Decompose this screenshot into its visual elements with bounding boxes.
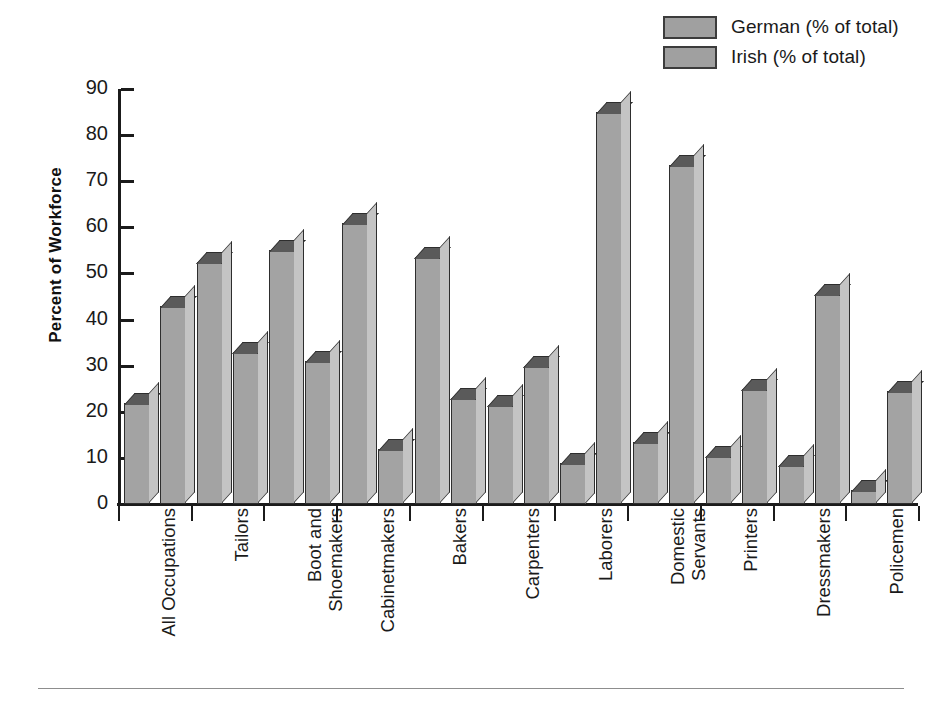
y-tick-mark xyxy=(121,365,134,368)
bar-side-face xyxy=(185,285,195,503)
bar xyxy=(378,449,404,504)
bar xyxy=(160,306,186,504)
x-category-label: Cabinetmakers xyxy=(377,508,398,658)
x-category-label: Printers xyxy=(740,508,761,658)
x-category-label: Boot and Shoemakers xyxy=(304,508,346,658)
x-category-label: Bakers xyxy=(449,508,470,658)
bar xyxy=(669,165,695,504)
bar xyxy=(305,361,331,504)
bar xyxy=(124,403,150,504)
plot-area: 0102030405060708090 xyxy=(118,89,918,504)
y-tick-mark xyxy=(121,180,134,183)
x-tick-mark xyxy=(918,506,920,521)
y-tick-label: 30 xyxy=(86,353,108,376)
y-tick-mark xyxy=(121,319,134,322)
bar xyxy=(269,250,295,504)
bar-side-face xyxy=(222,241,232,503)
bar-side-face xyxy=(476,377,486,503)
bar-side-face xyxy=(585,441,595,503)
bar-side-face xyxy=(513,384,523,503)
y-tick-label: 70 xyxy=(86,168,108,191)
y-axis-line xyxy=(118,89,121,504)
x-category-label: Tailors xyxy=(231,508,252,658)
bar-side-face xyxy=(549,345,559,503)
x-category-label: Policemen xyxy=(886,508,907,658)
bar-side-face xyxy=(367,202,377,503)
legend-label-irish: Irish (% of total) xyxy=(731,46,866,68)
y-tick-label: 80 xyxy=(86,122,108,145)
bar-side-face xyxy=(258,331,268,503)
bar-side-face xyxy=(330,340,340,503)
bar-side-face xyxy=(840,273,850,503)
bar-side-face xyxy=(149,381,159,503)
legend-label-german: German (% of total) xyxy=(731,16,899,38)
legend-swatch-german xyxy=(663,16,717,39)
y-tick-mark xyxy=(121,88,134,91)
legend-item-irish: Irish (% of total) xyxy=(663,42,923,72)
bar xyxy=(815,294,841,504)
bar-chart: German (% of total) Irish (% of total) P… xyxy=(0,0,927,705)
bar-side-face xyxy=(694,144,704,503)
x-axis-category-labels: All OccupationsTailorsBoot and Shoemaker… xyxy=(118,508,918,658)
y-tick-label: 50 xyxy=(86,260,108,283)
bar xyxy=(887,391,913,504)
x-category-label: All Occupations xyxy=(158,508,179,658)
bar-side-face xyxy=(767,368,777,503)
bar xyxy=(706,456,732,504)
bar-side-face xyxy=(804,444,814,503)
bar xyxy=(342,223,368,504)
bar-side-face xyxy=(440,236,450,503)
bar xyxy=(851,490,877,504)
bar xyxy=(596,112,622,504)
y-tick-mark xyxy=(121,134,134,137)
bar xyxy=(488,405,514,504)
legend-item-german: German (% of total) xyxy=(663,12,923,42)
y-tick-label: 20 xyxy=(86,399,108,422)
x-category-label: Dressmakers xyxy=(813,508,834,658)
y-axis-title: Percent of Workforce xyxy=(46,145,66,365)
x-category-label: Domestic Servants xyxy=(667,508,709,658)
bar-side-face xyxy=(658,421,668,503)
bar-side-face xyxy=(876,469,886,503)
y-tick-mark xyxy=(121,226,134,229)
bar-side-face xyxy=(912,370,922,503)
chart-legend: German (% of total) Irish (% of total) xyxy=(663,12,923,72)
bar xyxy=(197,262,223,504)
bar xyxy=(233,352,259,504)
bar xyxy=(415,257,441,504)
y-tick-label: 10 xyxy=(86,445,108,468)
y-tick-label: 40 xyxy=(86,307,108,330)
bar xyxy=(524,366,550,504)
y-tick-label: 90 xyxy=(86,76,108,99)
bar xyxy=(779,465,805,504)
bar xyxy=(451,398,477,504)
y-tick-mark xyxy=(121,272,134,275)
bottom-divider xyxy=(38,688,904,689)
bar-side-face xyxy=(731,434,741,503)
legend-swatch-irish xyxy=(663,46,717,69)
x-category-label: Laborers xyxy=(595,508,616,658)
bar xyxy=(560,463,586,505)
bar xyxy=(633,442,659,504)
bar-side-face xyxy=(621,91,631,503)
bar xyxy=(742,389,768,504)
y-tick-label: 60 xyxy=(86,214,108,237)
bar-side-face xyxy=(403,428,413,503)
y-tick-label: 0 xyxy=(97,491,108,514)
bar-side-face xyxy=(294,229,304,503)
x-category-label: Carpenters xyxy=(522,508,543,658)
